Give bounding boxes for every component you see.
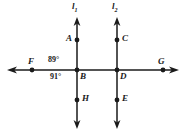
point-e-dot <box>115 98 120 103</box>
point-h-dot <box>75 98 80 103</box>
point-c-label: C <box>122 34 128 43</box>
point-f-dot <box>30 68 35 73</box>
point-f-label: F <box>28 57 34 66</box>
point-h-label: H <box>82 94 89 103</box>
point-g-label: G <box>158 57 165 66</box>
point-b-label: B <box>80 72 86 81</box>
point-a-dot <box>75 38 80 43</box>
point-d-label: D <box>120 72 127 81</box>
angle-89-label: 89° <box>48 56 59 64</box>
geometry-canvas <box>0 0 186 135</box>
angle-91-label: 91° <box>50 73 61 81</box>
point-e-label: E <box>122 94 128 103</box>
line-l2-label: l2 <box>112 2 118 13</box>
geometry-figure: l1 l2 A C F B D G H E 89° 91° <box>0 0 186 135</box>
point-d-dot <box>115 68 120 73</box>
point-g-dot <box>161 68 166 73</box>
point-a-label: A <box>66 34 72 43</box>
point-c-dot <box>115 38 120 43</box>
line-l1-label: l1 <box>72 2 78 13</box>
point-b-dot <box>75 68 80 73</box>
